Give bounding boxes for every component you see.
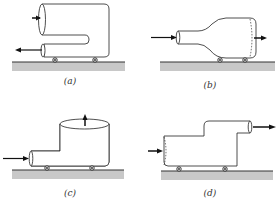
- outlet-arrow-icon: [269, 125, 276, 130]
- inlet-arrow-icon: [23, 156, 29, 161]
- panel-d: (d): [140, 102, 280, 204]
- inlet-arrow-icon: [157, 149, 163, 154]
- u-pipe-cart-diagram: [0, 0, 140, 102]
- panel-label: (b): [140, 80, 280, 90]
- panel-label: (c): [0, 188, 140, 198]
- outlet-arrow-icon: [15, 48, 21, 53]
- panel-b: (b): [140, 0, 280, 102]
- ground: [12, 62, 125, 71]
- panel-label: (a): [0, 76, 140, 86]
- panel-label: (d): [140, 188, 280, 198]
- outlet-arrow-icon: [83, 114, 88, 120]
- panel-c: (c): [0, 102, 140, 204]
- outlet-arrow-icon: [261, 36, 267, 41]
- panel-a: (a): [0, 0, 140, 102]
